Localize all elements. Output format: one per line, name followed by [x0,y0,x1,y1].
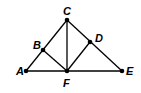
label-C: C [63,5,72,17]
point-F [65,69,70,74]
label-A: A [15,65,24,77]
point-B [41,48,46,53]
point-C [65,18,70,23]
label-D: D [95,32,103,44]
label-E: E [126,65,134,77]
point-E [120,69,125,74]
point-D [88,40,93,45]
label-F: F [63,77,70,89]
point-A [24,69,29,74]
labels: ABCDEF [15,5,134,89]
segment-CE [67,20,122,71]
label-B: B [33,39,41,51]
segment-DF [67,42,90,71]
segment-BF [43,50,67,71]
geometry-diagram: ABCDEF [0,0,141,93]
